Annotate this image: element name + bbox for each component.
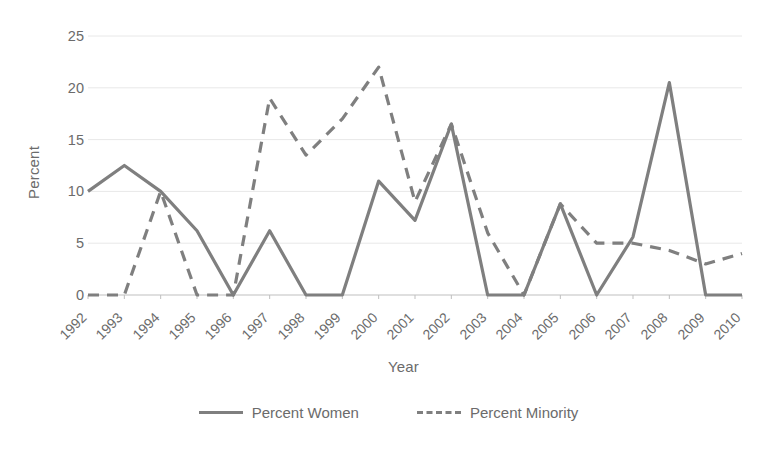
x-axis-tick-label: 1996 (202, 309, 235, 342)
x-axis-tick-label: 2005 (529, 309, 562, 342)
y-axis-title-text: Percent (25, 140, 42, 206)
x-axis-tick-label: 1999 (311, 309, 344, 342)
x-axis-tick-label: 1995 (165, 309, 198, 342)
x-axis-tick-label: 1993 (93, 309, 126, 342)
legend-label: Percent Women (252, 404, 359, 421)
line-chart: 0510152025 19921993199419951996199719981… (0, 0, 777, 450)
x-axis-tick-label: 1997 (238, 309, 271, 342)
x-axis-tick-label: 2007 (601, 309, 634, 342)
legend-item[interactable]: Percent Minority (417, 404, 578, 421)
x-axis-tick-label: 2006 (565, 309, 598, 342)
x-axis-tick-label: 2009 (674, 309, 707, 342)
x-axis-title: Year (0, 358, 777, 375)
x-axis-tick-label: 2010 (710, 309, 743, 342)
x-axis-tick-label: 2004 (492, 309, 525, 342)
x-axis-tick-label: 2001 (383, 309, 416, 342)
legend-item[interactable]: Percent Women (199, 404, 359, 421)
x-axis-tick-label: 1998 (274, 309, 307, 342)
legend-dashed-line-icon (417, 411, 461, 414)
x-axis-tick-label: 1992 (56, 309, 89, 342)
x-axis-tick-labels: 1992199319941995199619971998199920002001… (0, 0, 777, 450)
x-axis-tick-label: 2008 (638, 309, 671, 342)
x-axis-tick-label: 2003 (456, 309, 489, 342)
legend-label: Percent Minority (470, 404, 578, 421)
x-axis-tick-label: 1994 (129, 309, 162, 342)
chart-legend: Percent WomenPercent Minority (0, 404, 777, 421)
legend-solid-line-icon (199, 411, 243, 414)
x-axis-tick-label: 2000 (347, 309, 380, 342)
x-axis-tick-label: 2002 (420, 309, 453, 342)
